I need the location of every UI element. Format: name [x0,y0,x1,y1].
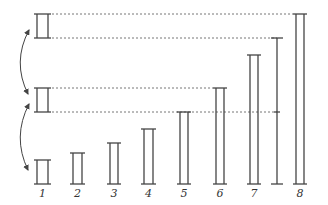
column-label-6: 6 [217,187,224,200]
column-label-1: 1 [39,187,46,200]
lower-curved-double-arrow-icon [20,104,29,170]
column-diagram: 12345678 [0,0,328,205]
column-label-4: 4 [144,187,152,200]
upper-curved-double-arrow-icon [20,30,29,94]
column-label-2: 2 [73,187,81,200]
column-label-3: 3 [111,187,118,200]
column-label-8: 8 [297,187,304,200]
column-label-5: 5 [181,187,188,200]
column-label-7: 7 [251,187,258,200]
